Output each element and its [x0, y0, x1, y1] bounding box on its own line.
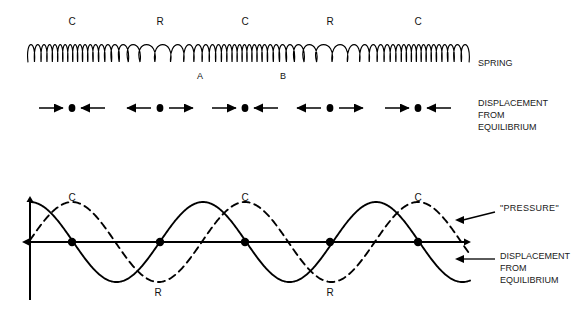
annotation-arrowhead-displacement	[455, 255, 464, 263]
displacement-annotation-label: DISPLACEMENT FROM EQUILIBRIUM	[500, 250, 570, 286]
graph-label-r-0: R	[154, 287, 161, 298]
graph-node-dot-4	[414, 238, 422, 246]
graph-label-c-1: C	[241, 192, 248, 203]
graph-annotation-arrows	[455, 212, 495, 263]
annotation-leader-line-pressure	[463, 212, 495, 220]
graph-node-dot-3	[326, 238, 334, 246]
graph-node-dot-2	[241, 238, 249, 246]
graph-node-dot-1	[156, 238, 164, 246]
x-axis-right-arrowhead	[464, 238, 471, 245]
annotation-arrowhead-pressure	[455, 216, 464, 224]
graph-label-c-2: C	[414, 192, 421, 203]
graph-axes	[22, 196, 471, 300]
graph-label-c-0: C	[68, 192, 75, 203]
x-axis-left-arrowhead	[22, 238, 29, 245]
graph-node-dot-0	[68, 238, 76, 246]
wave-graph: CCCRR	[0, 0, 572, 322]
pressure-annotation-label: "PRESSURE"	[500, 203, 559, 214]
longitudinal-wave-figure: CRCRCAB SPRING DISPLACEMENT FROM EQUILIB…	[0, 0, 572, 322]
graph-label-r-1: R	[326, 287, 333, 298]
